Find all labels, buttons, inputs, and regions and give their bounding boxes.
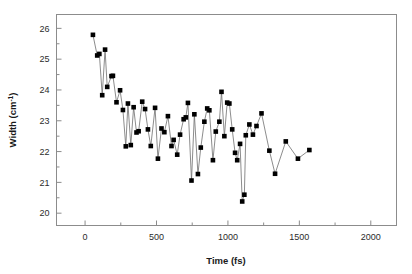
data-point-marker [171,138,176,143]
data-point-marker [198,145,203,150]
x-tick-label: 0 [83,232,88,242]
y-tick-label: 23 [39,116,49,126]
data-point-marker [186,101,191,106]
data-point-marker [105,85,110,90]
data-point-marker [296,156,301,161]
data-point-marker [146,127,151,132]
y-tick-label: 24 [39,85,49,95]
data-point-marker [240,199,245,204]
x-tick-label: 1500 [289,232,309,242]
data-point-marker [175,152,180,157]
data-point-marker [166,114,171,119]
data-point-marker [196,172,201,177]
data-point-marker [136,129,141,134]
data-point-marker [259,111,264,116]
x-tick-label: 500 [149,232,164,242]
data-point-marker [242,192,247,197]
y-tick-label: 20 [39,208,49,218]
data-point-marker [140,99,145,104]
y-axis-title-base: Width (cm [7,102,18,148]
data-point-marker [192,112,197,117]
data-point-marker [267,148,272,153]
data-point-marker [178,132,183,137]
data-point-marker [162,130,167,135]
x-axis-title: Time (fs) [206,255,245,266]
data-point-marker [126,101,131,106]
data-point-marker [273,171,278,176]
data-point-marker [114,100,119,105]
data-point-marker [156,156,161,161]
data-point-marker [247,122,252,127]
data-point-marker [91,33,96,38]
data-point-marker [148,144,153,149]
data-point-marker [238,142,243,147]
data-point-marker [217,119,222,124]
data-point-marker [202,119,207,124]
data-point-marker [128,143,133,148]
scatter-plot: 0500100015002000 20212223242526 Time (fs… [0,0,412,274]
x-tick-label: 1000 [218,232,238,242]
data-point-marker [211,158,216,163]
data-point-marker [97,52,102,57]
data-point-marker [189,178,194,183]
data-point-marker [121,108,126,113]
data-point-marker [307,148,312,153]
data-point-marker [243,133,248,138]
y-tick-label: 25 [39,54,49,64]
data-point-marker [118,88,123,93]
data-point-marker [111,74,116,79]
data-point-marker [227,101,232,106]
x-tick-label: 2000 [361,232,381,242]
y-tick-label: 22 [39,147,49,157]
data-point-marker [230,127,235,132]
data-point-marker [143,107,148,112]
data-point-marker [283,139,288,144]
data-point-marker [131,105,136,110]
data-point-marker [251,132,256,137]
figure-container: 0500100015002000 20212223242526 Time (fs… [0,0,412,274]
y-axis-title-close: ) [7,93,18,96]
data-point-marker [183,115,188,120]
y-tick-label: 21 [39,178,49,188]
data-point-marker [254,124,259,129]
y-tick-label: 26 [39,24,49,34]
data-point-marker [235,158,240,163]
data-point-marker [103,47,108,52]
data-point-marker [213,129,218,134]
data-point-marker [169,144,174,149]
data-point-marker [100,93,105,98]
plot-background [0,0,412,274]
data-point-marker [153,106,158,111]
data-point-marker [222,134,227,139]
data-point-marker [123,144,128,149]
data-point-marker [207,108,212,113]
data-point-marker [233,151,238,156]
data-point-marker [219,90,224,95]
